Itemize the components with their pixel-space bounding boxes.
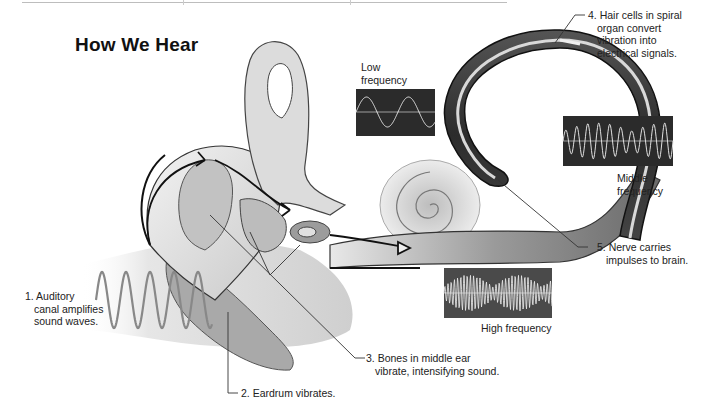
- middle-frequency-panel: [563, 116, 673, 166]
- label-line: Low: [361, 61, 380, 73]
- label-high-frequency: High frequency: [481, 322, 552, 335]
- label-line: vibration into: [588, 34, 682, 47]
- label-line: High frequency: [481, 322, 552, 334]
- label-step-4: 4. Hair cells in spiral organ convert vi…: [588, 9, 682, 59]
- label-line: Middle: [617, 172, 648, 184]
- label-line: electrical signals.: [588, 47, 682, 60]
- label-low-frequency: Low frequency: [361, 61, 407, 86]
- ear-diagram: [0, 0, 714, 412]
- label-line: canal amplifies: [25, 303, 103, 316]
- label-line: 5. Nerve carries: [597, 241, 671, 253]
- label-line: impulses to brain.: [597, 254, 688, 267]
- label-middle-frequency: Middle frequency: [617, 172, 663, 197]
- label-line: frequency: [361, 74, 407, 86]
- label-step-2: 2. Eardrum vibrates.: [241, 387, 336, 400]
- label-line: vibrate, intensifying sound.: [366, 365, 499, 378]
- page-title: How We Hear: [75, 34, 198, 56]
- label-line: 4. Hair cells in spiral: [588, 9, 682, 21]
- label-line: 3. Bones in middle ear: [366, 352, 470, 364]
- label-line: sound waves.: [25, 315, 103, 328]
- label-line: 1. Auditory: [25, 290, 75, 302]
- label-line: frequency: [617, 185, 663, 197]
- label-step-3: 3. Bones in middle ear vibrate, intensif…: [366, 352, 499, 377]
- label-step-1: 1. Auditory canal amplifies sound waves.: [25, 290, 103, 328]
- label-step-5: 5. Nerve carries impulses to brain.: [597, 241, 688, 266]
- label-line: organ convert: [588, 22, 682, 35]
- label-line: 2. Eardrum vibrates.: [241, 387, 336, 399]
- low-frequency-panel: [356, 89, 435, 136]
- high-frequency-panel: [444, 268, 552, 318]
